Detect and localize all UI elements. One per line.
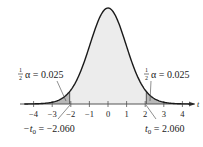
x-tick-label: −2 bbox=[66, 109, 75, 119]
x-tick-label: 2 bbox=[143, 109, 147, 119]
t-distribution-chart: −4−3−2−101234 t 1 2 α = 0.025 1 2 α = 0.… bbox=[0, 0, 203, 147]
left-alpha-annotation: 1 2 α = 0.025 bbox=[18, 67, 66, 101]
svg-text:α = 0.025: α = 0.025 bbox=[25, 69, 63, 80]
svg-text:2: 2 bbox=[19, 75, 22, 81]
center-region-fill bbox=[70, 8, 147, 104]
x-tick-label: −3 bbox=[48, 109, 57, 119]
axis-variable-label: t bbox=[197, 100, 200, 109]
neg-t0-label: −t0 = −2.060 bbox=[23, 123, 75, 136]
svg-text:2: 2 bbox=[145, 75, 148, 81]
svg-text:1: 1 bbox=[19, 67, 22, 73]
x-tick-label: 4 bbox=[180, 109, 185, 119]
svg-text:1: 1 bbox=[145, 67, 148, 73]
x-tick-label: 0 bbox=[106, 109, 110, 119]
x-tick-label: 3 bbox=[162, 109, 166, 119]
x-tick-label: 1 bbox=[124, 109, 128, 119]
pos-t0-pointer-line bbox=[146, 105, 156, 119]
svg-text:α = 0.025: α = 0.025 bbox=[151, 69, 189, 80]
x-tick-label: −4 bbox=[29, 109, 39, 119]
x-tick-label: −1 bbox=[85, 109, 94, 119]
pos-t0-label: t0 = 2.060 bbox=[145, 123, 184, 136]
